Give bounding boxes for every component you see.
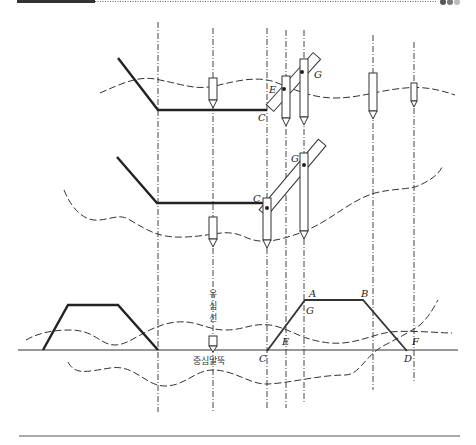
label-C: C [258, 112, 266, 123]
stake [369, 73, 377, 119]
stake [263, 198, 271, 248]
stake [209, 78, 217, 108]
vertical-label-char: 심 [209, 301, 217, 311]
label-B: B [360, 288, 368, 299]
label-C: C [253, 193, 261, 204]
stake [411, 83, 417, 107]
top-panel: E C G [100, 53, 455, 126]
label-F: F [411, 336, 420, 347]
label-G: G [314, 69, 322, 80]
center-stake-label: 중심말뚝 [193, 355, 225, 366]
label-A: A [308, 288, 316, 299]
stake [209, 217, 217, 247]
vertical-label-char: 유 [209, 289, 217, 299]
label-D: D [403, 353, 412, 364]
label-G: G [306, 305, 314, 316]
earthwork-slope-staking-diagram: E C G C G [0, 0, 476, 445]
label-C: C [259, 353, 267, 364]
middle-panel: C G [64, 139, 443, 248]
header-rule [17, 0, 460, 5]
header-dot-2 [447, 0, 453, 5]
stake [282, 76, 290, 126]
header-dot-3 [454, 0, 460, 5]
label-E: E [281, 336, 290, 347]
vertical-label-char: 선 [209, 313, 217, 323]
label-E: E [268, 84, 277, 95]
bottom-panel: 유 심 선 중심말뚝 A B G E C D F [18, 288, 458, 386]
stake [300, 59, 308, 125]
label-G: G [291, 153, 299, 164]
header-dot-1 [440, 0, 446, 5]
